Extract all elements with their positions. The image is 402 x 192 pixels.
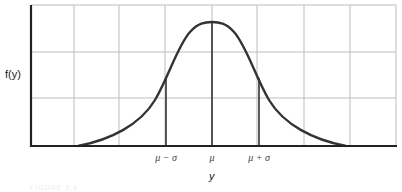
chart-canvas bbox=[0, 0, 402, 192]
figure-caption: FIGURE 5.4 bbox=[30, 184, 78, 191]
x-axis-label: y bbox=[209, 170, 215, 182]
tick-mu-minus-sigma: μ − σ bbox=[155, 152, 177, 163]
tick-mu: μ bbox=[209, 152, 214, 163]
reference-lines bbox=[166, 22, 259, 146]
y-axis-label: f(y) bbox=[5, 68, 21, 80]
grid bbox=[31, 5, 396, 146]
tick-mu-plus-sigma: μ + σ bbox=[248, 152, 270, 163]
axes bbox=[30, 5, 397, 147]
